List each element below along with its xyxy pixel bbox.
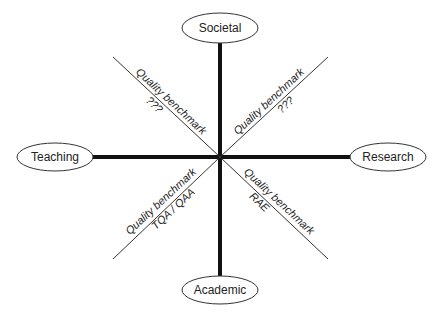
node-teaching: Teaching [17,143,93,171]
node-label-societal: Societal [199,21,242,35]
node-research: Research [350,143,426,171]
benchmark-title-top-right: Quality benchmark [231,65,307,137]
benchmark-bottom-left: Quality benchmark TQA / QAA [123,165,208,247]
diagram-svg: Societal Academic Teaching Research Qual… [0,0,439,314]
benchmark-line-top-left [113,57,220,157]
benchmark-line-bottom-right [220,157,328,259]
node-societal: Societal [182,13,258,43]
node-label-research: Research [362,150,413,164]
quality-benchmark-diagram: Societal Academic Teaching Research Qual… [0,0,439,314]
benchmark-bottom-right: Quality benchmark RAE [232,165,317,247]
node-academic: Academic [182,276,258,304]
node-label-teaching: Teaching [31,150,79,164]
node-label-academic: Academic [194,283,247,297]
